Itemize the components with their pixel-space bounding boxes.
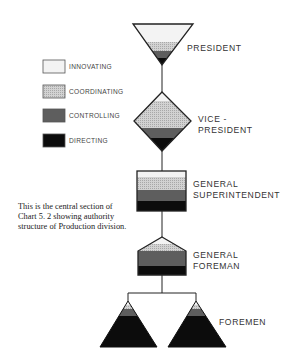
band-innovating <box>130 88 196 101</box>
band-directing <box>120 58 210 68</box>
foreman-shape-left <box>95 298 165 349</box>
legend-swatch-directing <box>43 134 65 147</box>
band-coordinating <box>163 305 233 309</box>
legend-swatch-controlling <box>43 109 65 122</box>
legend-swatch-innovating <box>43 60 65 73</box>
band-innovating <box>120 20 210 42</box>
vice-president-shape <box>130 88 196 154</box>
band-coordinating <box>95 305 165 309</box>
band-controlling <box>135 190 190 201</box>
authority-structure-diagram: PRESIDENT VICE - PRESIDENT GENERAL SUPER… <box>0 0 286 363</box>
president-label: PRESIDENT <box>187 43 242 53</box>
foremen-label: FOREMEN <box>219 317 266 327</box>
band-coordinating <box>135 177 190 190</box>
band-directing <box>95 316 165 349</box>
legend: INNOVATING COORDINATING CONTROLLING DIRE… <box>43 60 123 147</box>
general-foreman-label: GENERAL FOREMAN <box>193 250 241 271</box>
legend-item-controlling: CONTROLLING <box>43 109 120 122</box>
legend-item-directing: DIRECTING <box>43 134 108 147</box>
caption: This is the central section of Chart 5. … <box>18 202 126 231</box>
legend-label-innovating: INNOVATING <box>69 63 112 70</box>
band-directing <box>130 138 196 154</box>
general-foreman-shape <box>135 234 190 277</box>
legend-label-directing: DIRECTING <box>69 137 108 144</box>
legend-item-coordinating: COORDINATING <box>43 85 123 98</box>
band-controlling <box>95 309 165 316</box>
vice-president-label: VICE - PRESIDENT <box>198 114 253 135</box>
legend-label-coordinating: COORDINATING <box>69 88 123 95</box>
band-controlling <box>163 309 233 316</box>
legend-label-controlling: CONTROLLING <box>69 112 120 119</box>
legend-swatch-coordinating <box>43 85 65 98</box>
band-controlling <box>135 251 190 266</box>
general-superintendent-label: GENERAL SUPERINTENDENT <box>193 179 280 200</box>
band-controlling <box>130 128 196 138</box>
general-superintendent-shape <box>135 169 190 213</box>
legend-item-innovating: INNOVATING <box>43 60 112 73</box>
